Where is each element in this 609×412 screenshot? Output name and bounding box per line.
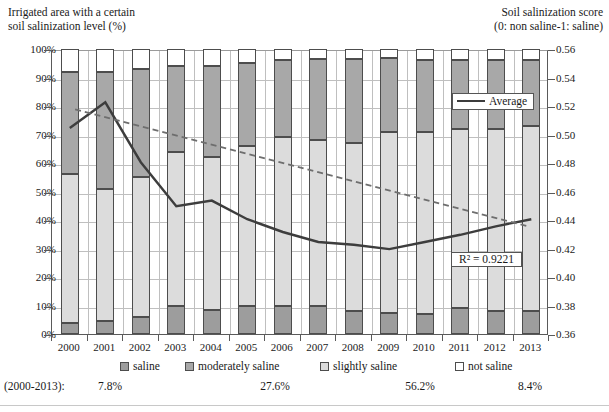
footer-rule — [0, 405, 609, 406]
period-average-value: 8.4% — [500, 380, 560, 392]
average-line-swatch — [457, 100, 485, 102]
y-tick-mark-right — [548, 193, 555, 194]
y-tick-mark-left — [44, 107, 51, 108]
y-tick-mark-left — [44, 50, 51, 51]
y-tick-mark-right — [548, 79, 555, 80]
y-tick-mark-right — [548, 250, 555, 251]
y-tick-label-left: 90% — [10, 72, 56, 84]
y-tick-label-left: 100% — [10, 43, 56, 55]
x-tick-label: 2013 — [507, 341, 553, 353]
y-tick-label-right: 0.54 — [556, 72, 602, 84]
y-tick-label-left: 50% — [10, 186, 56, 198]
legend-swatch-saline — [120, 362, 129, 371]
y-tick-mark-left — [44, 136, 51, 137]
y-tick-label-left: 20% — [10, 271, 56, 283]
left-axis-title: Irrigated area with a certainsoil salini… — [8, 6, 135, 33]
average-legend: Average — [452, 93, 534, 110]
y-tick-mark-left — [44, 307, 51, 308]
y-tick-label-left: 0% — [10, 328, 56, 340]
y-tick-label-right: 0.46 — [556, 186, 602, 198]
legend-item-saline: saline — [120, 360, 160, 372]
period-average-value: 27.6% — [245, 380, 305, 392]
y-tick-label-right: 0.48 — [556, 157, 602, 169]
y-tick-label-left: 40% — [10, 214, 56, 226]
y-tick-label-right: 0.56 — [556, 43, 602, 55]
y-tick-mark-right — [548, 307, 555, 308]
y-tick-mark-left — [44, 193, 51, 194]
legend-swatch-moderately_saline — [185, 362, 194, 371]
legend-item-slightly_saline: slightly saline — [320, 360, 397, 372]
average-line — [70, 102, 532, 249]
y-tick-label-right: 0.36 — [556, 328, 602, 340]
legend-label-saline: saline — [133, 360, 160, 372]
legend-item-not_saline: not saline — [455, 360, 512, 372]
y-tick-label-left: 70% — [10, 129, 56, 141]
trendline — [75, 109, 528, 226]
period-average-value: 7.8% — [80, 380, 140, 392]
y-tick-mark-right — [548, 335, 555, 336]
y-tick-mark-right — [548, 50, 555, 51]
y-tick-mark-left — [44, 278, 51, 279]
average-legend-label: Average — [489, 95, 527, 107]
y-tick-label-right: 0.38 — [556, 300, 602, 312]
category-legend: salinemoderately salineslightly salineno… — [0, 360, 609, 377]
y-tick-mark-right — [548, 164, 555, 165]
y-tick-mark-left — [44, 79, 51, 80]
y-tick-mark-left — [44, 164, 51, 165]
legend-swatch-slightly_saline — [320, 362, 329, 371]
y-tick-label-left: 10% — [10, 300, 56, 312]
right-axis-title: Soil salinization score(0: non saline-1:… — [494, 6, 603, 33]
y-tick-mark-right — [548, 107, 555, 108]
y-tick-label-right: 0.42 — [556, 243, 602, 255]
period-average-row: (2000-2013): 7.8%27.6%56.2%8.4% — [0, 380, 609, 398]
y-tick-label-left: 30% — [10, 243, 56, 255]
legend-label-slightly_saline: slightly saline — [333, 360, 397, 372]
y-tick-mark-left — [44, 250, 51, 251]
y-tick-label-right: 0.44 — [556, 214, 602, 226]
r-squared-label: R² = 0.9221 — [451, 252, 522, 267]
y-tick-label-left: 80% — [10, 100, 56, 112]
period-average-label: (2000-2013): — [4, 380, 65, 392]
left-axis-title-line1: Irrigated area with a certain — [8, 6, 135, 18]
legend-item-moderately_saline: moderately saline — [185, 360, 279, 372]
y-tick-mark-right — [548, 278, 555, 279]
y-tick-mark-right — [548, 221, 555, 222]
legend-label-moderately_saline: moderately saline — [198, 360, 279, 372]
legend-swatch-not_saline — [455, 362, 464, 371]
period-average-value: 56.2% — [390, 380, 450, 392]
y-tick-label-right: 0.52 — [556, 100, 602, 112]
right-axis-title-line1: Soil salinization score — [501, 6, 603, 18]
legend-label-not_saline: not saline — [468, 360, 512, 372]
chart-root: Irrigated area with a certainsoil salini… — [0, 0, 609, 412]
left-axis-title-line2: soil salinization level (%) — [8, 20, 126, 32]
y-tick-mark-left — [44, 221, 51, 222]
y-tick-mark-right — [548, 136, 555, 137]
y-tick-mark-left — [44, 335, 51, 336]
y-tick-label-right: 0.40 — [556, 271, 602, 283]
y-tick-label-right: 0.50 — [556, 129, 602, 141]
y-tick-label-left: 60% — [10, 157, 56, 169]
right-axis-title-line2: (0: non saline-1: saline) — [494, 20, 603, 32]
